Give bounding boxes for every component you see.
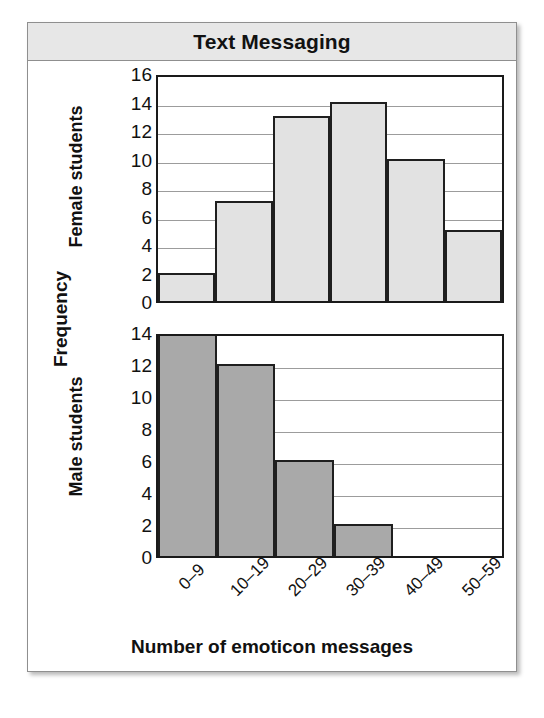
x-tick-labels: 0–910–1920–2930–3940–4950–59	[156, 570, 504, 640]
figure-title: Text Messaging	[193, 30, 350, 54]
y-tick-label: 14	[118, 93, 152, 115]
panel-label-female: Female students	[66, 82, 87, 272]
y-tick-label: 8	[118, 419, 152, 441]
figure-title-bar: Text Messaging	[28, 23, 516, 61]
x-axis-title: Number of emoticon messages	[28, 636, 516, 658]
figure-panel: Text Messaging Frequency Female students…	[27, 22, 517, 672]
y-tick-label: 0	[118, 292, 152, 314]
y-tick-label: 4	[118, 483, 152, 505]
y-tick-label: 12	[118, 355, 152, 377]
y-tick-label: 10	[118, 150, 152, 172]
y-ticks-male: 02468101214	[112, 316, 152, 568]
y-tick-label: 2	[118, 515, 152, 537]
panel-female-students: Female students 0246810121416	[28, 61, 516, 316]
bar-10-19	[217, 364, 276, 556]
y-tick-label: 14	[118, 323, 152, 345]
panel-male-students: Male students 02468101214	[28, 316, 516, 568]
plot-area-male	[156, 334, 504, 558]
y-ticks-female: 0246810121416	[112, 61, 152, 316]
bar-30-39	[330, 102, 387, 302]
y-tick-label: 6	[118, 451, 152, 473]
y-tick-label: 10	[118, 387, 152, 409]
y-tick-label: 4	[118, 235, 152, 257]
bar-0-9	[158, 273, 215, 302]
plot-area-female	[156, 75, 504, 303]
y-tick-label: 2	[118, 264, 152, 286]
y-tick-label: 0	[118, 547, 152, 569]
panel-label-male: Male students	[66, 342, 87, 532]
bar-0-9	[158, 334, 217, 556]
bar-50-59	[445, 230, 502, 301]
bars-female	[158, 77, 502, 301]
bar-20-29	[273, 116, 330, 301]
y-tick-label: 16	[118, 64, 152, 86]
y-tick-label: 8	[118, 178, 152, 200]
bar-20-29	[275, 460, 334, 556]
bar-40-49	[387, 159, 444, 302]
bars-male	[158, 336, 502, 556]
y-tick-label: 12	[118, 121, 152, 143]
bar-10-19	[215, 201, 272, 301]
y-tick-label: 6	[118, 207, 152, 229]
